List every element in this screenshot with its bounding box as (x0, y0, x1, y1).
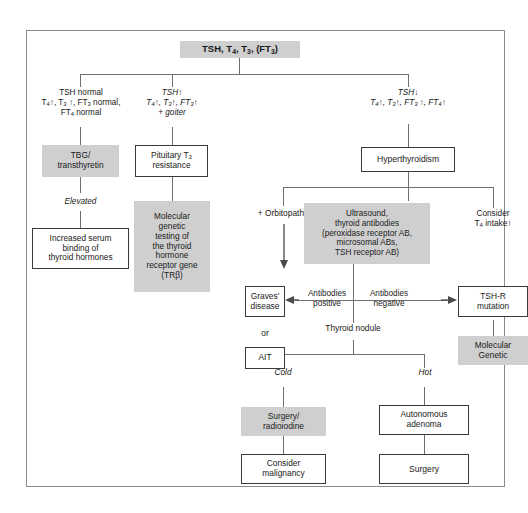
molecular-testing-text: Moleculargenetictesting ofthe thyroidhor… (146, 212, 197, 280)
middle-criteria-line1: TSH↑ (124, 88, 220, 98)
connector-cold-to-surgery (283, 387, 284, 407)
connector-hyper-down (408, 172, 409, 187)
connector-hot-drop (424, 354, 425, 368)
label-elevated: Elevated (47, 197, 114, 207)
ultrasound-text: Ultrasound,thyroid antibodies(peroxidase… (322, 209, 412, 257)
connector-workup-drop (408, 187, 409, 201)
node-hyperthyroidism: Hyperthyroidism (361, 147, 455, 172)
connector-middle-to-pituitary (172, 127, 173, 145)
right-criteria-line1: TSH↓ (340, 88, 476, 98)
label-cold: Cold (259, 368, 307, 378)
middle-criteria-line2: T4↑, T3↑, FT3↑ (124, 98, 220, 108)
connector-hot-to-adenoma (424, 387, 425, 405)
connector-nodule-down (353, 340, 354, 354)
connector-pituitary-to-molecular (172, 177, 173, 201)
antibodies-positive-line2: positive (299, 299, 355, 309)
molecular-genetic-text: MolecularGenetic (475, 341, 511, 361)
right-criteria-line2: T4↑, T3↑, FT3 ↑, FT4↑ (340, 98, 476, 108)
tshr-text: TSH-Rmutation (477, 292, 509, 312)
node-molecular-genetic: MolecularGenetic (458, 336, 528, 365)
label-antibodies-positive: Antibodies positive (299, 289, 355, 309)
antibodies-negative-line1: Antibodies (360, 289, 418, 299)
node-consider-malignancy: Considermalignancy (241, 454, 326, 484)
node-pituitary-t3-resistance: Pituitary T3resistance (135, 145, 208, 177)
graves-text: Graves'disease (251, 292, 280, 312)
connector-title-down (239, 58, 240, 74)
label-right-criteria: TSH↓ T4↑, T3↑, FT3 ↑, FT4↑ (340, 88, 476, 108)
diagram-canvas: TSH, T4, T3, (FT3) TSH normal T4↑, T3 ↑,… (0, 0, 528, 513)
autonomous-adenoma-text: Autonomousadenoma (400, 410, 447, 430)
connector-main-split (80, 74, 408, 75)
node-surgery: Surgery (379, 454, 469, 484)
connector-tbg-to-elevated (80, 177, 81, 193)
label-antibodies-negative: Antibodies negative (360, 289, 418, 309)
left-criteria-line1: TSH normal (22, 88, 140, 98)
connector-right-drop (408, 74, 409, 87)
connector-surgery-to-malignancy (283, 436, 284, 454)
consider-line2: T4 intake↑ (460, 219, 526, 229)
label-hot: Hot (401, 368, 449, 378)
label-or: or (245, 328, 285, 338)
arrow-antibodies-positive (285, 294, 299, 306)
diagram-frame: TSH, T4, T3, (FT3) TSH normal T4↑, T3 ↑,… (26, 30, 505, 487)
increased-serum-binding-text: Increased serumbinding ofthyroid hormone… (48, 234, 112, 263)
node-ultrasound-antibodies: Ultrasound,thyroid antibodies(peroxidase… (304, 203, 430, 264)
antibodies-negative-line2: negative (360, 299, 418, 309)
middle-criteria-line3: + goiter (124, 108, 220, 118)
connector-left-drop (80, 74, 81, 87)
surgery-radioiodine-text: Surgery/radioiodine (263, 412, 304, 432)
antibodies-positive-line1: Antibodies (299, 289, 355, 299)
node-ait: AIT (245, 347, 285, 369)
connector-consider-drop (493, 187, 494, 208)
label-thyroid-nodule: Thyroid nodule (306, 323, 400, 333)
node-increased-serum-binding: Increased serumbinding ofthyroid hormone… (32, 228, 129, 269)
label-consider-t4-intake: Consider T4 intake↑ (460, 209, 526, 229)
connector-left-to-tbg (80, 127, 81, 145)
node-molecular-genetic-testing: Moleculargenetictesting ofthe thyroidhor… (134, 201, 210, 292)
connector-elevated-to-outcome (80, 211, 81, 228)
node-tshr-mutation: TSH-Rmutation (458, 286, 528, 317)
left-criteria-line3: FT4 normal (22, 108, 140, 118)
connector-orbitopathy-drop (283, 187, 284, 206)
arrow-orbitopathy-to-graves (278, 224, 290, 270)
label-middle-criteria: TSH↑ T4↑, T3↑, FT3↑ + goiter (124, 88, 220, 118)
node-autonomous-adenoma: Autonomousadenoma (379, 405, 469, 435)
node-surgery-radioiodine: Surgery/radioiodine (241, 407, 326, 436)
node-tbg-transthyretin: TBG/transthyretin (42, 145, 119, 177)
left-criteria-line2: T4↑, T3 ↑, FT3 normal, (22, 98, 140, 108)
arrow-antibodies-negative (441, 294, 457, 306)
connector-adenoma-to-surgery (424, 435, 425, 454)
node-title-labs: TSH, T4, T3, (FT3) (180, 41, 300, 58)
label-left-criteria: TSH normal T4↑, T3 ↑, FT3 normal, FT4 no… (22, 88, 140, 119)
node-graves-disease: Graves'disease (245, 286, 285, 317)
connector-tshr-to-molecular (493, 320, 494, 336)
consider-malignancy-text: Considermalignancy (262, 459, 304, 479)
connector-nodule-split (283, 354, 424, 355)
connector-hyper-split (283, 187, 493, 188)
title-text: TSH, T4, T3, (FT3) (202, 43, 278, 56)
tbg-text: TBG/transthyretin (57, 151, 103, 171)
connector-middle-drop (172, 74, 173, 87)
connector-right-to-hyper (408, 124, 409, 147)
pituitary-text: Pituitary T3resistance (151, 151, 192, 171)
